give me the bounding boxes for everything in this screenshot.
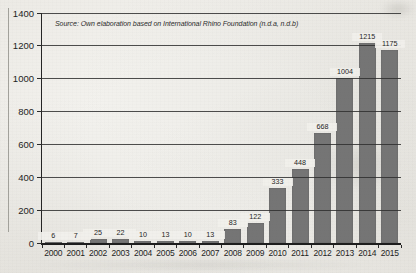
bar-2004 [134,241,151,243]
x-axis-tick [109,245,110,248]
bar-2012 [314,133,331,243]
bar-2000 [45,242,62,243]
x-axis-tick [86,245,87,248]
x-axis-tick [266,245,267,248]
x-axis-tick [131,245,132,248]
x-axis-tick [64,245,65,248]
bar-2009 [247,223,264,243]
bar-value-2011: 448 [285,159,315,167]
x-axis-tick [401,245,402,248]
bar-value-2010: 333 [263,178,293,186]
bar-2006 [179,241,196,243]
bar-2008 [224,229,241,243]
bar-value-2009: 122 [240,213,270,221]
x-axis-label-2005: 2005 [154,249,176,258]
x-axis-label-2007: 2007 [199,249,221,258]
x-axis-label-2013: 2013 [334,249,356,258]
y-axis-tick [37,210,42,211]
y-axis-label: 0 [0,238,34,249]
y-axis-tick [37,177,42,178]
x-axis-label-2006: 2006 [177,249,199,258]
x-axis-tick [378,245,379,248]
x-axis-tick [243,245,244,248]
gridline-600 [42,144,401,145]
x-axis-label-2004: 2004 [132,249,154,258]
bar-2005 [157,241,174,243]
y-axis-label: 400 [0,172,34,183]
x-axis-label-2002: 2002 [87,249,109,258]
bar-value-2012: 668 [307,123,337,131]
x-axis-label-2009: 2009 [244,249,266,258]
y-axis-tick [37,45,42,46]
bar-2002 [90,239,107,243]
x-axis-tick [199,245,200,248]
y-axis-label: 1400 [0,8,34,19]
gridline-200 [42,210,401,211]
rhino-poaching-bar-chart: Source: Own elaboration based on Interna… [0,0,416,273]
source-note: Source: Own elaboration based on Interna… [55,20,298,27]
x-axis-tick [176,245,177,248]
x-axis-tick [311,245,312,248]
x-axis-label-2008: 2008 [222,249,244,258]
x-axis-tick [221,245,222,248]
bar-2003 [112,239,129,243]
x-axis-tick [333,245,334,248]
x-axis-label-2000: 2000 [42,249,64,258]
x-axis-label-2015: 2015 [379,249,401,258]
y-axis-label: 200 [0,205,34,216]
bar-value-2013: 1004 [330,68,360,76]
y-axis-label: 1200 [0,40,34,51]
x-axis-tick [356,245,357,248]
y-axis-label: 800 [0,106,34,117]
x-axis-tick [42,245,43,248]
gridline-800 [42,111,401,112]
x-axis-label-2010: 2010 [266,249,288,258]
x-axis-label-2014: 2014 [356,249,378,258]
x-axis-tick [154,245,155,248]
gridline-1000 [42,78,401,79]
y-axis-tick [37,78,42,79]
bar-2010 [269,188,286,243]
y-axis-tick [37,243,42,244]
x-axis-label-2001: 2001 [64,249,86,258]
gridline-400 [42,177,401,178]
scanned-document-page: Source: Own elaboration based on Interna… [0,0,416,273]
x-axis-label-2003: 2003 [109,249,131,258]
y-axis-label: 600 [0,139,34,150]
gridline-1400 [42,13,401,14]
x-axis-label-2012: 2012 [311,249,333,258]
bar-2013 [336,78,353,243]
y-axis-tick [37,13,42,14]
bar-2007 [202,241,219,243]
plot-area: Source: Own elaboration based on Interna… [41,13,401,245]
x-axis-label-2011: 2011 [289,249,311,258]
bar-2001 [67,242,84,243]
y-axis-tick [37,111,42,112]
y-axis-label: 1000 [0,73,34,84]
y-axis-tick [37,144,42,145]
bar-2011 [292,169,309,243]
x-axis-tick [288,245,289,248]
bar-value-2007: 13 [195,231,225,239]
bar-value-2015: 1175 [375,40,405,48]
gridline-1200 [42,45,401,46]
